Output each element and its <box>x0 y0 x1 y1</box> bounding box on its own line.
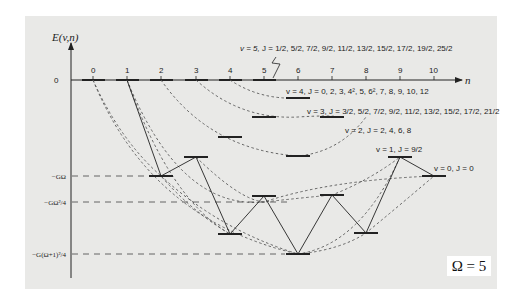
svg-text:7: 7 <box>330 66 335 75</box>
svg-text:2: 2 <box>159 66 164 75</box>
svg-text:0: 0 <box>91 66 96 75</box>
x-axis-label: n <box>465 74 471 86</box>
band-labels: v = 5, J = 1/2, 5/2, 7/2, 9/2, 11/2, 13/… <box>240 44 500 173</box>
svg-text:v = 2, J = 2, 4, 6, 8: v = 2, J = 2, 4, 6, 8 <box>345 126 412 135</box>
svg-text:8: 8 <box>364 66 369 75</box>
level-bars <box>149 98 446 254</box>
svg-text:v = 1, J = 9/2: v = 1, J = 9/2 <box>376 145 423 154</box>
svg-text:−G(Ω+1)²/4: −G(Ω+1)²/4 <box>32 251 66 259</box>
svg-text:3: 3 <box>194 66 199 75</box>
svg-text:6: 6 <box>296 66 301 75</box>
svg-text:5: 5 <box>262 66 267 75</box>
origin-label: 0 <box>54 76 59 85</box>
energy-labels: −GΩ −GΩ²/4 −G(Ω+1)²/4 <box>32 173 66 259</box>
n-tick-labels: 0 1 2 3 4 5 6 7 8 9 10 <box>91 66 438 75</box>
svg-text:v = 3, J = 3/2, 5/2, 7/2, 9/2,: v = 3, J = 3/2, 5/2, 7/2, 9/2, 11/2, 13/… <box>307 107 500 116</box>
svg-text:1: 1 <box>125 66 130 75</box>
svg-text:v = 5, J = 1/2, 5/2, 7/2, 9/2,: v = 5, J = 1/2, 5/2, 7/2, 9/2, 11/2, 13/… <box>240 44 453 53</box>
svg-text:−GΩ: −GΩ <box>52 173 66 181</box>
svg-text:v = 0, J = 0: v = 0, J = 0 <box>434 164 474 173</box>
y-axis-label: E(v,n) <box>51 31 79 44</box>
svg-text:4: 4 <box>228 66 233 75</box>
energy-level-diagram: E(v,n) n 0 0 1 2 3 4 5 6 7 8 9 10 −GΩ −G… <box>0 0 518 302</box>
svg-text:9: 9 <box>398 66 403 75</box>
svg-text:−GΩ²/4: −GΩ²/4 <box>44 199 66 207</box>
omega-value-box: Ω = 5 <box>447 256 491 276</box>
break-marker <box>272 57 280 78</box>
svg-text:v = 4, J = 0, 2, 3, 4², 5, 6²,: v = 4, J = 0, 2, 3, 4², 5, 6², 7, 8, 9, … <box>286 87 429 96</box>
svg-text:10: 10 <box>429 66 438 75</box>
